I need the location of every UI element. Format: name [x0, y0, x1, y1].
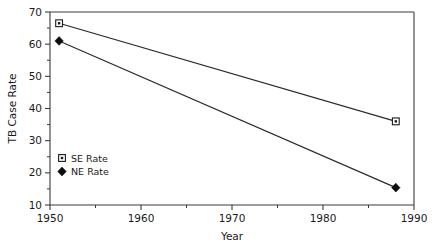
x-tick-label: 1950: [37, 212, 64, 224]
legend-label-2: NE Rate: [71, 166, 109, 177]
y-axis-title: TB Case Rate: [6, 73, 18, 144]
y-tick-label: 10: [29, 199, 42, 211]
legend-label-1: SE Rate: [71, 153, 108, 164]
legend-marker-1-center: [61, 157, 63, 159]
line-chart: 1020304050607019501960197019801990YearTB…: [0, 0, 435, 249]
data-point-2-1: [55, 37, 63, 46]
y-tick-label: 50: [29, 70, 42, 82]
y-tick-label: 60: [29, 38, 42, 50]
x-tick-label: 1980: [310, 212, 337, 224]
y-tick-label: 30: [29, 134, 42, 146]
x-tick-label: 1990: [401, 212, 428, 224]
y-tick-label: 70: [29, 6, 42, 18]
x-axis-title: Year: [220, 230, 244, 242]
x-tick-label: 1970: [219, 212, 246, 224]
y-tick-label: 40: [29, 102, 42, 114]
x-tick-label: 1960: [128, 212, 155, 224]
series-line-1: [59, 23, 396, 121]
series-line-2: [59, 41, 396, 188]
data-point-1-1-center: [58, 22, 60, 24]
data-point-1-2-center: [395, 120, 397, 122]
data-point-2-2: [392, 183, 400, 192]
y-tick-label: 20: [29, 166, 42, 178]
chart-figure: 1020304050607019501960197019801990YearTB…: [0, 0, 435, 249]
legend-marker-2: [58, 167, 66, 176]
